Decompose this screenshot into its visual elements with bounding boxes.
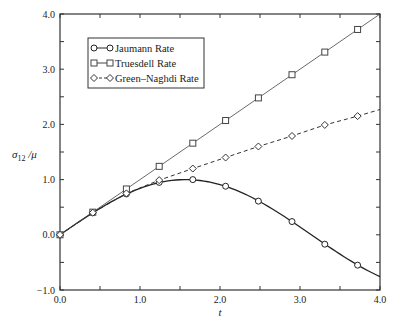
- square-marker: [355, 26, 361, 32]
- square-marker: [223, 118, 229, 124]
- y-tick-label: −1.0: [37, 285, 55, 296]
- x-tick-label: 4.0: [374, 294, 387, 305]
- circle-marker: [322, 241, 328, 247]
- diamond-marker: [354, 113, 361, 120]
- diamond-marker: [321, 121, 328, 128]
- y-axis-label-rest: /μ: [25, 148, 37, 160]
- square-marker: [156, 163, 162, 169]
- series-green-naghdi-rate: [57, 109, 381, 238]
- legend-label: Jaumann Rate: [115, 43, 175, 54]
- diamond-marker: [189, 165, 196, 172]
- square-marker: [289, 72, 295, 78]
- x-axis-label: t: [218, 306, 222, 318]
- legend-label: Green–Naghdi Rate: [115, 73, 199, 84]
- stress-vs-time-chart: 0.01.02.03.04.0−1.00.01.02.03.04.0 t σ12…: [0, 0, 398, 331]
- circle-marker: [190, 177, 196, 183]
- circle-marker: [91, 45, 97, 51]
- x-tick-label: 3.0: [294, 294, 307, 305]
- square-marker: [322, 49, 328, 55]
- circle-marker: [289, 219, 295, 225]
- y-axis-label: σ12 /μ: [12, 148, 37, 163]
- circle-marker: [255, 198, 261, 204]
- diamond-marker: [255, 143, 262, 150]
- square-marker: [107, 60, 113, 66]
- square-marker: [190, 140, 196, 146]
- square-marker: [255, 95, 261, 101]
- y-tick-label: 0.0: [43, 229, 56, 240]
- diamond-marker: [222, 154, 229, 161]
- circle-marker: [107, 45, 113, 51]
- series-line: [60, 109, 380, 234]
- x-tick-label: 2.0: [214, 294, 227, 305]
- y-tick-label: 1.0: [43, 174, 56, 185]
- series-line: [60, 180, 380, 277]
- diamond-marker: [289, 132, 296, 139]
- legend-label: Truesdell Rate: [115, 58, 176, 69]
- y-axis-label-subscript: 12: [17, 154, 25, 163]
- series-jaumann-rate: [57, 177, 380, 277]
- square-marker: [91, 60, 97, 66]
- legend: Jaumann RateTruesdell RateGreen–Naghdi R…: [88, 38, 204, 88]
- circle-marker: [223, 183, 229, 189]
- x-tick-label: 1.0: [134, 294, 147, 305]
- y-tick-label: 2.0: [43, 119, 56, 130]
- circle-marker: [355, 262, 361, 268]
- y-tick-label: 4.0: [43, 9, 56, 20]
- y-tick-label: 3.0: [43, 64, 56, 75]
- x-tick-label: 0.0: [54, 294, 67, 305]
